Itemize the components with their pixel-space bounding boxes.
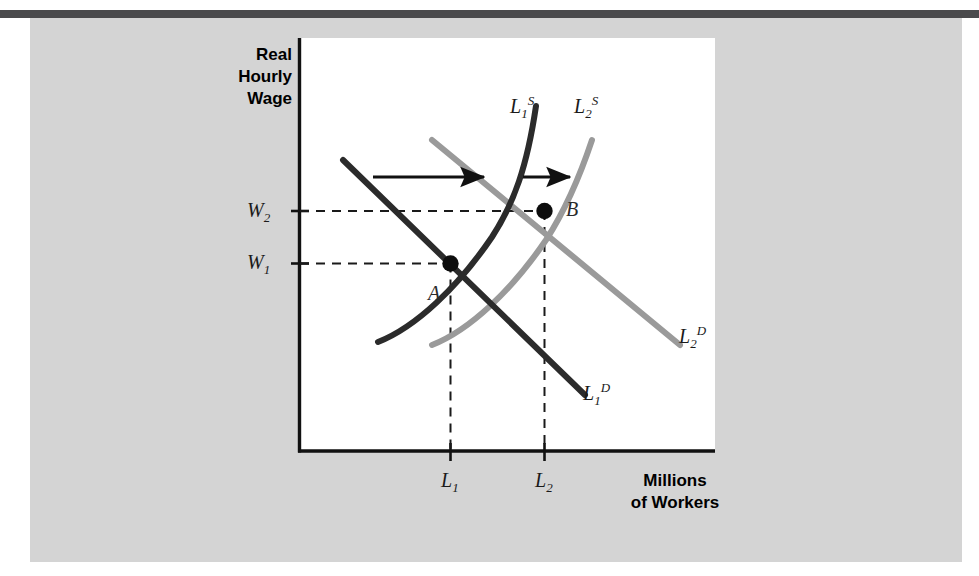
curve-label-ls1-sup: S bbox=[528, 93, 535, 108]
x-tick-label-l2: L2 bbox=[535, 469, 553, 492]
equilibrium-point-b bbox=[536, 203, 552, 219]
tick-marks bbox=[291, 211, 545, 461]
x-tick-label-l2-base: L bbox=[535, 469, 546, 491]
curve-label-labor-demand-2: L2D bbox=[679, 325, 706, 348]
curve-labor-demand-2 bbox=[432, 140, 680, 345]
curve-label-labor-supply-1: L1S bbox=[510, 95, 534, 118]
y-tick-label-w2-sub: 2 bbox=[264, 210, 271, 225]
y-tick-label-w1-sub: 1 bbox=[264, 262, 271, 277]
curve-label-ld1-sup: D bbox=[601, 380, 610, 395]
x-tick-label-l2-sub: 2 bbox=[546, 480, 553, 495]
curve-label-ls1-base: L bbox=[510, 95, 521, 117]
x-tick-label-l1: L1 bbox=[441, 469, 459, 492]
curve-labor-supply-2 bbox=[432, 140, 592, 345]
x-axis-title: Millions of Workers bbox=[600, 470, 750, 514]
curve-label-ls2-base: L bbox=[574, 95, 585, 117]
axis-lines bbox=[298, 38, 715, 453]
y-tick-label-w1-base: W bbox=[247, 251, 264, 273]
equilibrium-label-b: B bbox=[566, 198, 578, 221]
x-tick-label-l1-base: L bbox=[441, 469, 452, 491]
figure-stage: Real Hourly Wage Millions of Workers W2 … bbox=[0, 0, 979, 576]
y-axis-title: Real Hourly Wage bbox=[182, 44, 292, 110]
equilibrium-label-a: A bbox=[428, 282, 440, 305]
curve-label-labor-supply-2: L2S bbox=[574, 95, 598, 118]
y-tick-label-w2-base: W bbox=[247, 199, 264, 221]
curve-label-labor-demand-1: L1D bbox=[583, 382, 610, 405]
curve-label-ld2-sup: D bbox=[697, 323, 706, 338]
x-tick-label-l1-sub: 1 bbox=[452, 480, 459, 495]
curve-label-ld2-base: L bbox=[679, 325, 690, 347]
curve-labor-supply-1 bbox=[378, 106, 536, 342]
y-tick-label-w1: W1 bbox=[247, 251, 270, 274]
y-tick-label-w2: W2 bbox=[247, 199, 270, 222]
equilibrium-points bbox=[442, 203, 552, 272]
curve-label-ls2-sup: S bbox=[592, 93, 599, 108]
equilibrium-point-a bbox=[442, 255, 458, 271]
curve-label-ld1-base: L bbox=[583, 382, 594, 404]
graph-drawing bbox=[0, 0, 979, 576]
guide-lines bbox=[300, 211, 545, 451]
